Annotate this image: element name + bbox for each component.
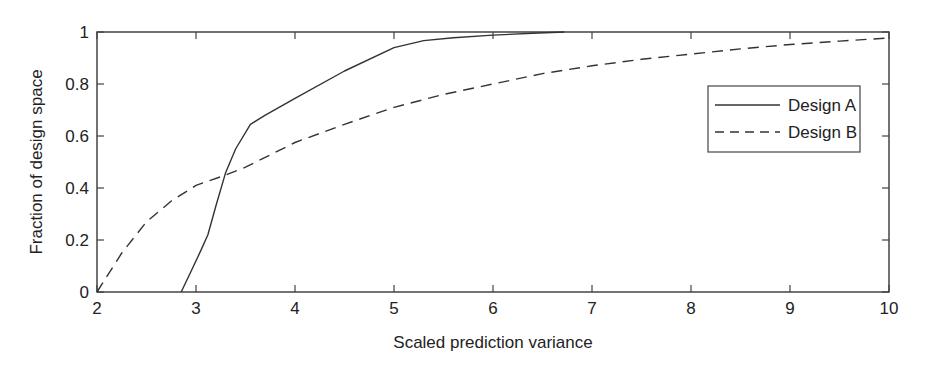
x-tick-label: 10 <box>880 299 899 318</box>
series-design-b <box>97 38 889 292</box>
y-tick-label: 0.6 <box>65 127 89 146</box>
y-tick-label: 0.4 <box>65 179 89 198</box>
plot-area <box>97 32 889 292</box>
x-tick-label: 9 <box>785 299 794 318</box>
x-axis: 2345678910 <box>92 32 898 318</box>
x-tick-label: 5 <box>389 299 398 318</box>
y-tick-label: 0.2 <box>65 231 89 250</box>
x-tick-label: 4 <box>290 299 299 318</box>
x-tick-label: 6 <box>488 299 497 318</box>
x-tick-label: 2 <box>92 299 101 318</box>
x-axis-label: Scaled prediction variance <box>393 333 592 352</box>
x-tick-label: 7 <box>587 299 596 318</box>
y-tick-label: 0 <box>80 283 89 302</box>
series-design-a <box>181 32 564 292</box>
series-layer <box>97 32 889 292</box>
y-tick-label: 0.8 <box>65 75 89 94</box>
y-tick-label: 1 <box>80 23 89 42</box>
chart: 2345678910 00.20.40.60.81 Scaled predict… <box>0 0 925 373</box>
x-tick-label: 3 <box>191 299 200 318</box>
legend: Design A Design B <box>708 86 860 152</box>
legend-label-design-b: Design B <box>788 123 857 142</box>
legend-label-design-a: Design A <box>788 96 857 115</box>
axes-box <box>97 32 889 292</box>
y-axis-label: Fraction of design space <box>27 69 46 254</box>
y-axis: 00.20.40.60.81 <box>65 23 889 302</box>
x-tick-label: 8 <box>686 299 695 318</box>
